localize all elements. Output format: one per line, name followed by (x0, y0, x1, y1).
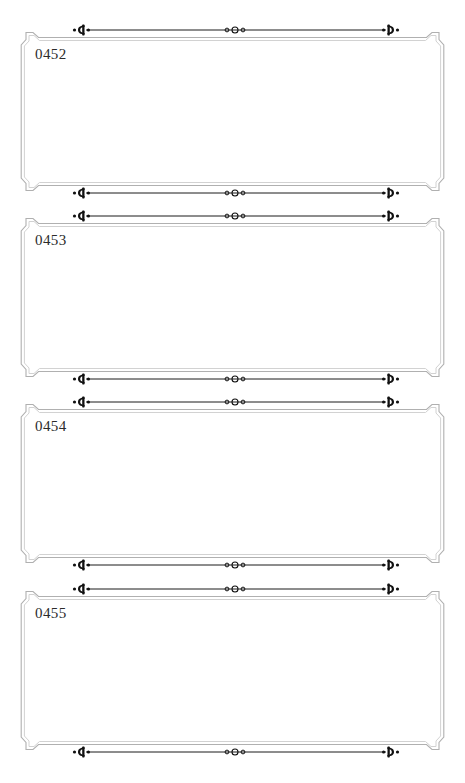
card-number: 0455 (35, 606, 67, 621)
fleuron-c-icon (73, 211, 90, 222)
fleuron-reverse-c-icon (382, 374, 399, 385)
card-body[interactable] (30, 631, 435, 740)
card-number: 0452 (35, 47, 67, 62)
card-top-rule (72, 24, 400, 36)
card-bottom-rule (72, 559, 400, 571)
fleuron-c-icon (73, 397, 90, 408)
ornamental-card-0454[interactable]: 0454 (20, 402, 445, 565)
fleuron-c-icon (73, 374, 90, 385)
fleuron-c-icon (73, 584, 90, 595)
card-body[interactable] (30, 258, 435, 367)
fleuron-reverse-c-icon (382, 211, 399, 222)
card-top-rule (72, 583, 400, 595)
ornamental-card-0455[interactable]: 0455 (20, 589, 445, 752)
fleuron-reverse-c-icon (382, 188, 399, 199)
ornamental-card-0452[interactable]: 0452 (20, 30, 445, 193)
card-bottom-rule (72, 187, 400, 199)
fleuron-reverse-c-icon (382, 584, 399, 595)
fleuron-c-icon (73, 25, 90, 36)
fleuron-reverse-c-icon (382, 25, 399, 36)
card-body[interactable] (30, 72, 435, 181)
card-bottom-rule (72, 746, 400, 758)
fleuron-c-icon (73, 747, 90, 758)
fleuron-reverse-c-icon (382, 397, 399, 408)
card-number: 0454 (35, 419, 67, 434)
ornamental-card-sheet: 0452 (0, 0, 465, 783)
fleuron-c-icon (73, 188, 90, 199)
card-top-rule (72, 210, 400, 222)
fleuron-reverse-c-icon (382, 747, 399, 758)
card-body[interactable] (30, 444, 435, 553)
card-number: 0453 (35, 233, 67, 248)
card-top-rule (72, 396, 400, 408)
fleuron-reverse-c-icon (382, 560, 399, 571)
ornamental-card-0453[interactable]: 0453 (20, 216, 445, 379)
fleuron-c-icon (73, 560, 90, 571)
card-bottom-rule (72, 373, 400, 385)
